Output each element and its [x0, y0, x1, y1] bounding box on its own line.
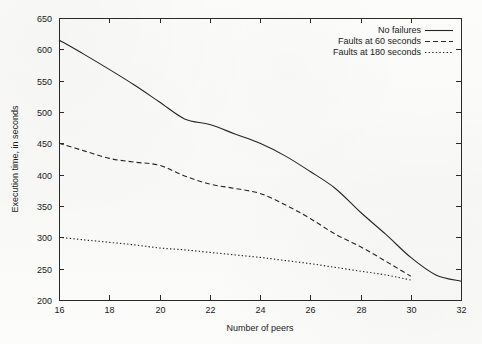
y-tick-label: 250	[37, 265, 52, 275]
legend-label-1: Faults at 60 seconds	[338, 36, 422, 46]
x-tick-label: 30	[406, 305, 416, 315]
legend-label-2: Faults at 180 seconds	[333, 47, 422, 57]
y-tick-label: 450	[37, 139, 52, 149]
y-tick-label: 600	[37, 45, 52, 55]
y-tick-label: 550	[37, 77, 52, 87]
y-tick-label: 500	[37, 108, 52, 118]
x-tick-label: 22	[205, 305, 215, 315]
x-axis-title: Number of peers	[226, 323, 294, 333]
line-chart: 2002503003504004505005506006501618202224…	[0, 0, 482, 344]
series-line-2	[59, 237, 411, 280]
chart-page: 2002503003504004505005506006501618202224…	[0, 0, 482, 344]
x-tick-label: 24	[255, 305, 265, 315]
plot-frame	[60, 19, 462, 301]
y-tick-label: 650	[37, 14, 52, 24]
y-tick-label: 300	[37, 233, 52, 243]
x-tick-label: 16	[54, 305, 64, 315]
x-tick-label: 32	[456, 305, 466, 315]
y-axis-title: Execution time, in seconds	[10, 105, 20, 213]
x-tick-label: 28	[356, 305, 366, 315]
legend-label-0: No failures	[378, 25, 422, 35]
y-tick-label: 350	[37, 202, 52, 212]
x-tick-label: 18	[104, 305, 114, 315]
y-tick-label: 200	[37, 296, 52, 306]
series-line-0	[59, 40, 461, 281]
x-tick-label: 26	[305, 305, 315, 315]
y-tick-label: 400	[37, 171, 52, 181]
x-tick-label: 20	[155, 305, 165, 315]
